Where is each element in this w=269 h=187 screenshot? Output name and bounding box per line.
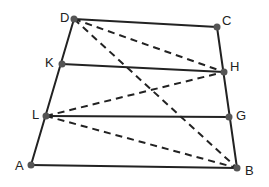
segment-DA [31, 19, 74, 165]
point-C [214, 24, 221, 31]
label-G: G [236, 108, 246, 123]
segment-KH [62, 64, 224, 72]
point-K [59, 61, 66, 68]
label-H: H [230, 59, 239, 74]
label-D: D [60, 10, 69, 25]
point-G [226, 114, 233, 121]
point-H [221, 69, 228, 76]
dashed-segment-LH [46, 72, 224, 116]
label-L: L [32, 107, 39, 122]
point-L [43, 113, 50, 120]
dashed-segments [46, 19, 237, 168]
point-A [28, 162, 35, 169]
segment-DC [74, 19, 217, 27]
label-A: A [15, 158, 24, 173]
point-B [234, 165, 241, 172]
point-D [71, 16, 78, 23]
trapezoid-diagram: DCKHLGAB [0, 0, 269, 187]
label-C: C [222, 13, 231, 28]
segment-LG [46, 116, 229, 117]
segment-CB [217, 27, 237, 168]
label-B: B [245, 163, 254, 178]
segment-AB [31, 165, 237, 168]
label-K: K [45, 55, 54, 70]
